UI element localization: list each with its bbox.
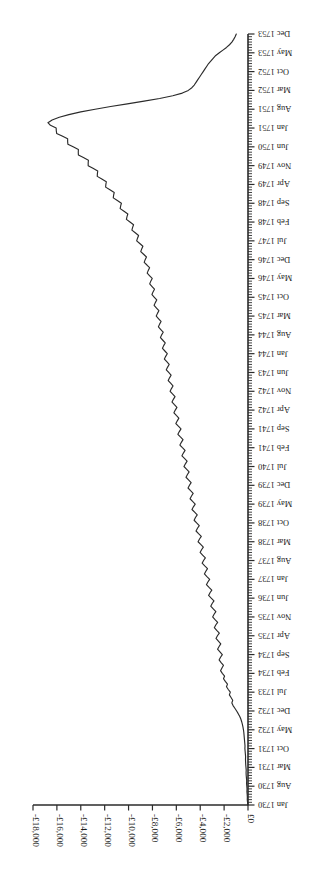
value-axis-tick-label: -£2,000 <box>222 814 232 843</box>
value-axis-tick-label: -£16,000 <box>55 814 65 847</box>
date-axis-tick-label: Feb 1748 <box>258 217 289 226</box>
date-axis-tick-label: Apr 1749 <box>258 179 290 188</box>
date-axis-tick-label: Sep 1741 <box>258 424 289 433</box>
date-axis-tick-label: Nov 1742 <box>258 386 291 395</box>
rotated-figure-container: £0-£2,000-£4,000-£6,000-£8,000-£10,000-£… <box>0 0 325 877</box>
date-axis-tick-label: Oct 1738 <box>258 518 289 527</box>
date-axis-tick-label: Aug 1751 <box>258 104 291 113</box>
date-axis-tick-label: Sep 1734 <box>257 650 289 659</box>
date-axis-tick-label: Feb 1734 <box>257 668 289 677</box>
date-axis-tick-label: Jan 1737 <box>258 574 288 583</box>
value-axis-tick-label: -£6,000 <box>174 814 184 843</box>
value-axis-tick-label: -£10,000 <box>127 814 137 847</box>
value-axis-tick-label: -£18,000 <box>31 814 41 847</box>
date-axis-tick-label: Jul 1733 <box>258 687 287 696</box>
date-axis-tick-label: Aug 1744 <box>257 330 291 339</box>
date-axis-tick-label: Mar 1731 <box>258 762 291 771</box>
date-axis-tick-label: Dec 1732 <box>258 706 290 715</box>
date-axis-tick-label: May 1753 <box>258 48 292 57</box>
date-axis-tick-label: May 1739 <box>258 499 292 508</box>
date-axis-tick-label: Aug 1730 <box>258 781 291 790</box>
date-axis-tick-label: Oct 1752 <box>258 67 289 76</box>
value-axis-tick-label: -£12,000 <box>103 814 113 847</box>
date-axis-tick-label: Nov 1749 <box>258 161 291 170</box>
date-axis-tick-label: Oct 1745 <box>258 292 289 301</box>
date-axis-tick-label: Mar 1745 <box>258 311 291 320</box>
date-axis-tick-label: Oct 1731 <box>258 744 289 753</box>
date-axis-tick-label: Nov 1735 <box>258 612 291 621</box>
date-axis-tick-label: Jun 1736 <box>258 593 288 602</box>
value-axis-tick-label: -£4,000 <box>198 814 208 843</box>
date-axis-tick-label: Jan 1751 <box>258 123 288 132</box>
line-chart-plot: £0-£2,000-£4,000-£6,000-£8,000-£10,000-£… <box>0 0 325 877</box>
value-axis-tick-label: -£14,000 <box>79 814 89 847</box>
date-axis-tick-label: Jan 1744 <box>257 349 288 358</box>
date-axis-tick-label: Mar 1738 <box>258 537 291 546</box>
date-axis-tick-label: Feb 1741 <box>258 443 289 452</box>
date-axis-tick-label: Jan 1730 <box>258 800 288 809</box>
date-axis-tick-label: Dec 1739 <box>258 480 290 489</box>
date-axis-tick-label: Sep 1748 <box>258 198 289 207</box>
date-axis-tick-label: May 1746 <box>258 273 292 282</box>
date-axis-tick-label: Apr 1735 <box>258 631 290 640</box>
value-axis-tick-label: £0 <box>246 814 256 824</box>
value-axis-tick-label: -£8,000 <box>150 814 160 843</box>
date-axis-tick-label: Jun 1750 <box>258 142 288 151</box>
date-axis-tick-label: Jul 1747 <box>258 236 287 245</box>
date-axis-tick-label: May 1732 <box>258 725 292 734</box>
chart-canvas: £0-£2,000-£4,000-£6,000-£8,000-£10,000-£… <box>0 0 325 877</box>
date-axis-tick-label: Jun 1743 <box>258 367 288 376</box>
date-axis-tick-label: Jul 1740 <box>258 462 287 471</box>
date-axis-tick-label: Mar 1752 <box>258 85 291 94</box>
date-axis-tick-label: Aug 1737 <box>258 556 291 565</box>
date-axis-tick-label: Apr 1742 <box>258 405 290 414</box>
date-axis-tick-label: Dec 1753 <box>258 29 290 38</box>
date-axis-tick-label: Dec 1746 <box>258 255 290 264</box>
